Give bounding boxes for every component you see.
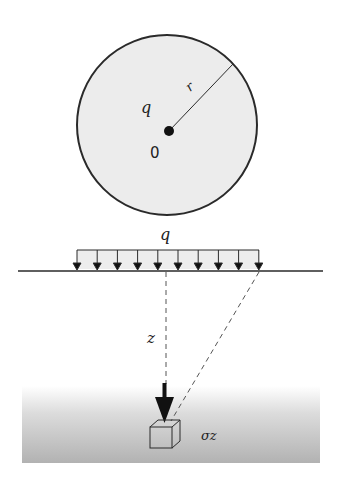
section-view: q z <box>18 225 323 463</box>
loaded-circle <box>77 35 257 215</box>
section-load-label: q <box>160 225 170 244</box>
load-block <box>77 250 259 269</box>
depth-label: z <box>146 329 155 347</box>
diagram: q 0 r q <box>0 0 337 480</box>
plan-load-label: q <box>141 98 151 117</box>
center-label: 0 <box>150 144 160 162</box>
center-point <box>164 126 174 136</box>
plan-view: q 0 r <box>77 35 257 215</box>
distributed-load <box>73 250 263 270</box>
stress-label: σz <box>201 428 217 443</box>
